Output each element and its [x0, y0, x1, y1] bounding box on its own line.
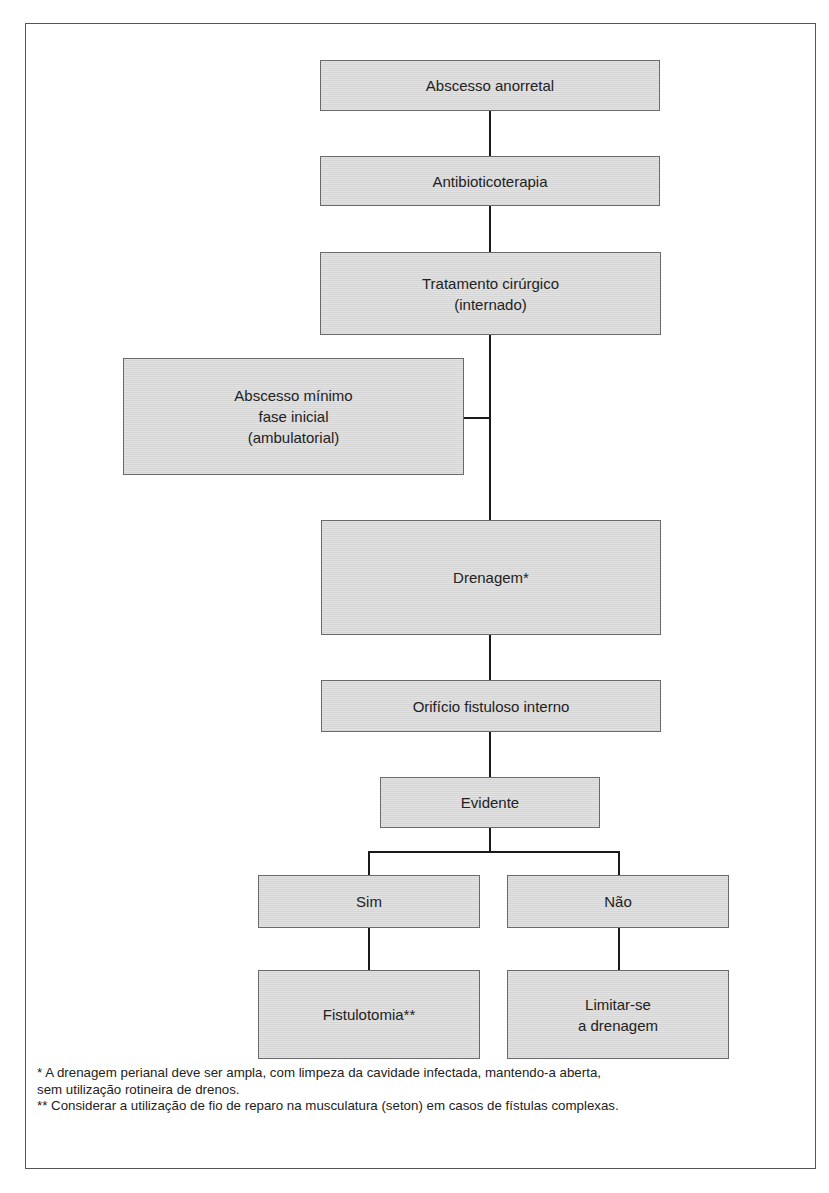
node-evidente: Evidente [380, 777, 600, 828]
node-abscesso-minimo: Abscesso mínimo fase inicial (ambulatori… [123, 358, 464, 475]
node-abscesso-anorretal: Abscesso anorretal [320, 60, 660, 111]
connector-sim-fistulotomia [368, 928, 370, 970]
node-sim: Sim [258, 875, 480, 928]
node-nao: Não [507, 875, 729, 928]
node-label: Antibioticoterapia [432, 171, 547, 192]
node-label: Evidente [461, 792, 519, 813]
connector-abscesso-antibiotico [489, 111, 491, 156]
node-label: Tratamento cirúrgico (internado) [422, 273, 559, 315]
connector-split-nao [618, 851, 620, 875]
node-label: Limitar-se a drenagem [578, 994, 658, 1036]
connector-split-horizontal [368, 851, 620, 853]
footnote-1-line-2: sem utilização rotineira de drenos. [37, 1082, 807, 1099]
connector-split-sim [368, 851, 370, 875]
connector-antibiotico-tratamento [489, 206, 491, 252]
node-label: Abscesso mínimo fase inicial (ambulatori… [234, 385, 352, 448]
node-label: Abscesso anorretal [426, 75, 554, 96]
node-orificio-fistuloso: Orifício fistuloso interno [321, 680, 661, 732]
node-limitar-drenagem: Limitar-se a drenagem [507, 970, 729, 1059]
node-antibioticoterapia: Antibioticoterapia [320, 156, 660, 206]
node-tratamento-cirurgico: Tratamento cirúrgico (internado) [320, 252, 661, 335]
connector-drenagem-orificio [489, 635, 491, 680]
node-label: Fistulotomia** [323, 1004, 416, 1025]
footnote-2: ** Considerar a utilização de fio de rep… [37, 1098, 807, 1115]
connector-orificio-evidente [489, 732, 491, 777]
connector-tratamento-drenagem [489, 335, 491, 520]
node-label: Sim [356, 891, 382, 912]
node-label: Orifício fistuloso interno [413, 696, 570, 717]
node-label: Não [604, 891, 632, 912]
node-drenagem: Drenagem* [321, 520, 661, 635]
node-label: Drenagem* [453, 567, 529, 588]
footnotes: * A drenagem perianal deve ser ampla, co… [37, 1065, 807, 1115]
connector-evidente-split [489, 828, 491, 852]
connector-minimo-trunk [464, 417, 490, 419]
footnote-1-line-1: * A drenagem perianal deve ser ampla, co… [37, 1065, 807, 1082]
node-fistulotomia: Fistulotomia** [258, 970, 480, 1059]
connector-nao-limitar [618, 928, 620, 970]
